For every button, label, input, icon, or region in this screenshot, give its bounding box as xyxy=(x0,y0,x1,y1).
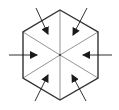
arrow-upper-right-icon xyxy=(73,8,87,35)
spoke-line-2 xyxy=(60,55,98,78)
spoke-line-5 xyxy=(23,32,60,55)
arrow-lower-right-icon xyxy=(72,75,86,101)
spoke-line-1 xyxy=(60,32,98,55)
arrow-lower-left-icon xyxy=(35,75,48,101)
spoke-line-4 xyxy=(23,55,60,78)
arrow-upper-left-icon xyxy=(36,8,48,34)
hexagon-diagram xyxy=(0,0,119,110)
center-point xyxy=(59,54,61,56)
